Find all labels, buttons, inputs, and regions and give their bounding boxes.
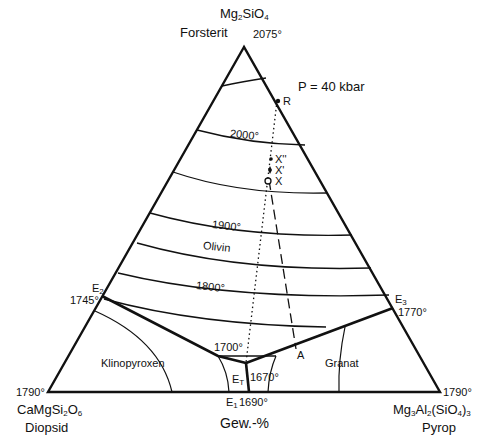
ternary-triangle [48,47,440,392]
eutectic-ET-label: ET [232,374,244,387]
point-X2 [269,157,273,161]
eutectic-E2-temp: 1745° [70,295,99,306]
forsterit-temp: 2075° [253,29,282,40]
diopsid-formula: CaMgSi2O6 [17,403,82,418]
point-X-label: X [275,176,282,187]
eutectic-ET-temp: 1670° [250,372,279,383]
pyrop-temp: 1790° [443,387,472,398]
isotherm-1800 [118,273,389,296]
diopsid-name: Diopsid [25,421,68,434]
point-A-label: A [297,350,304,361]
field-label-granat: Granat [325,358,359,369]
isotherm-2050 [222,78,266,86]
point-R-label: R [283,96,291,107]
pyrop-name: Pyrop [422,421,456,434]
units-label: Gew.-% [220,416,269,430]
forsterit-formula: Mg2SiO4 [220,7,269,22]
diopsid-temp: 1790° [16,387,45,398]
forsterit-name: Forsterit [180,26,228,39]
ternary-diagram-canvas [0,0,491,443]
eutectic-E3-temp: 1770° [398,307,427,318]
isotherm-label-1700: 1700° [214,342,243,353]
isotherm-1900 [150,213,352,235]
eutectic-E1-label: E1 [226,397,238,410]
isotherm-1950 [173,172,327,193]
point-R [276,99,280,103]
cotectic-E3-ET [246,308,393,363]
dashed-line-X-A [269,180,296,349]
cotectic-ET-E1 [246,363,249,392]
pressure-label: P = 40 kbar [298,80,365,93]
isotherm-1850 [137,243,371,268]
cpx-isotherm-outer [95,311,172,392]
cpx-isotherm-inner [218,356,229,392]
pyrop-formula: Mg3Al2(SiO4)3 [393,403,471,418]
point-X [265,178,271,184]
field-label-klinopyroxen: Klinopyroxen [101,358,165,369]
eutectic-E1-temp: 1690° [239,397,268,408]
